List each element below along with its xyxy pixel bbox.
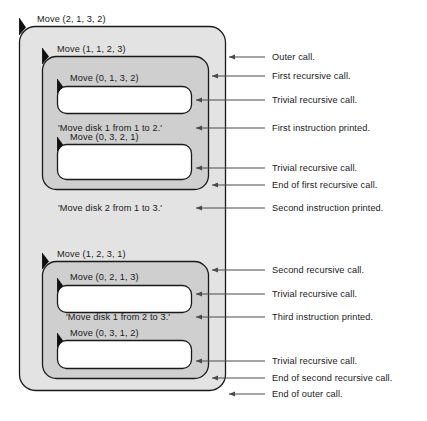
call-label-first-trivial-a: Move (0, 1, 3, 2) <box>70 73 139 83</box>
annotation-first-recursive-call: First recursive call. <box>272 71 351 81</box>
annotation-trivial-recursive-call-1: Trivial recursive call. <box>272 95 357 105</box>
instruction-label-first: 'Move disk 1 from 1 to 2.' <box>58 123 162 133</box>
annotation-third-instruction: Third instruction printed. <box>272 312 373 322</box>
call-label-first-trivial-b: Move (0, 3, 2, 1) <box>70 132 139 142</box>
figure-canvas: Move (2, 1, 3, 2) Move (1, 1, 2, 3) Move… <box>0 0 427 421</box>
annotation-first-instruction: First instruction printed. <box>272 123 370 133</box>
annotation-second-recursive-call: Second recursive call. <box>272 265 364 275</box>
first-trivial-call-box-b <box>58 145 192 180</box>
annotation-trivial-recursive-call-3: Trivial recursive call. <box>272 289 357 299</box>
first-trivial-call-box-a <box>58 87 192 114</box>
call-label-second-recursive: Move (1, 2, 3, 1) <box>57 249 126 259</box>
annotation-outer-call: Outer call. <box>272 52 315 62</box>
annotation-end-first-recursive-call: End of first recursive call. <box>272 180 377 190</box>
annotation-end-second-recursive-call: End of second recursive call. <box>272 373 392 383</box>
call-label-second-trivial-b: Move (0, 3, 1, 2) <box>70 328 139 338</box>
annotation-end-outer-call: End of outer call. <box>272 389 343 399</box>
instruction-label-second: 'Move disk 2 from 1 to 3.' <box>58 203 162 213</box>
call-label-second-trivial-a: Move (0, 2, 1, 3) <box>70 272 139 282</box>
second-trivial-call-box-b <box>58 341 192 369</box>
instruction-label-third: 'Move disk 1 from 2 to 3.' <box>66 312 170 322</box>
annotation-trivial-recursive-call-4: Trivial recursive call. <box>272 356 357 366</box>
annotation-second-instruction: Second instruction printed. <box>272 203 383 213</box>
call-label-first-recursive: Move (1, 1, 2, 3) <box>57 44 126 54</box>
annotation-trivial-recursive-call-2: Trivial recursive call. <box>272 163 357 173</box>
second-trivial-call-box-a <box>58 286 192 313</box>
call-label-outer: Move (2, 1, 3, 2) <box>37 14 106 24</box>
